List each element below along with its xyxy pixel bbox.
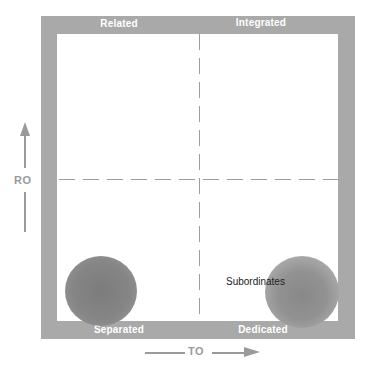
ro-axis-line	[24, 132, 26, 168]
label-separated: Separated	[49, 324, 189, 335]
subordinates-label: Subordinates	[226, 276, 285, 287]
to-axis-label: TO	[188, 345, 204, 357]
vertical-divider	[199, 34, 200, 321]
right-arrow-icon	[244, 347, 260, 357]
to-axis-line-right	[212, 352, 246, 354]
label-related: Related	[49, 18, 189, 29]
blob-separated	[65, 256, 137, 326]
quadrant-area: Subordinates	[57, 34, 338, 321]
ro-axis-line-lower	[24, 192, 26, 232]
quadrant-frame: Related Integrated Separated Dedicated S…	[41, 16, 355, 339]
horizontal-divider	[59, 179, 339, 180]
ro-axis-label: RO	[14, 174, 32, 186]
to-axis-line	[145, 352, 185, 354]
blob-dedicated	[265, 256, 339, 328]
label-integrated: Integrated	[191, 17, 331, 28]
